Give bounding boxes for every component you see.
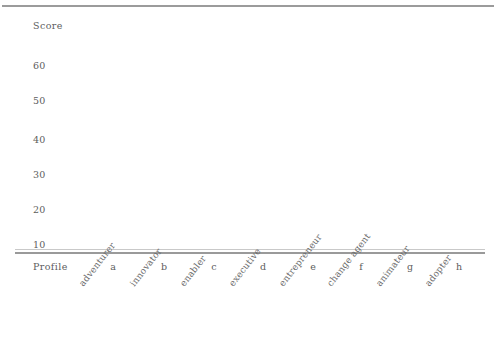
x-axis-tick-label: e xyxy=(303,261,323,272)
x-axis-tick-label: g xyxy=(400,261,420,272)
x-axis-tick-label: h xyxy=(449,261,469,272)
y-axis-tick-label: 50 xyxy=(33,95,46,106)
x-axis-tick-label: f xyxy=(351,261,371,272)
x-axis-rule-thin xyxy=(15,249,485,250)
x-axis-tick-label: c xyxy=(204,261,224,272)
y-axis-tick-label: 30 xyxy=(33,169,46,180)
y-axis-heading: Score xyxy=(33,20,63,31)
plot-area xyxy=(80,10,485,249)
y-axis-tick-label: 60 xyxy=(33,60,46,71)
x-axis-tick-label: b xyxy=(154,261,174,272)
x-axis-heading: Profile xyxy=(33,261,68,272)
x-axis-tick-label: a xyxy=(103,261,123,272)
x-axis: Profile aadventurerbinnovatorcenablerdex… xyxy=(0,254,496,352)
x-axis-tick-label: d xyxy=(253,261,273,272)
y-axis-tick-label: 40 xyxy=(33,134,46,145)
y-axis: Score 605040302010 xyxy=(0,0,90,260)
y-axis-tick-label: 20 xyxy=(33,204,46,215)
chart-figure: Score 605040302010 Profile aadventurerbi… xyxy=(0,0,496,352)
